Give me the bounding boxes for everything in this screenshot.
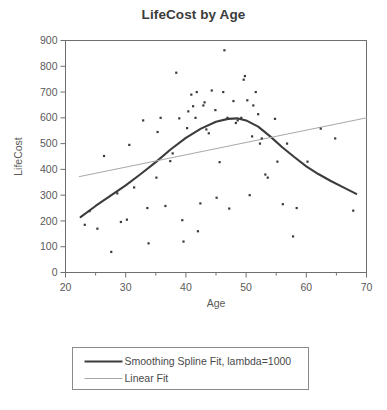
scatter-point [88, 210, 90, 212]
scatter-point [203, 101, 205, 103]
scatter-point [196, 91, 198, 93]
scatter-point [252, 104, 254, 106]
scatter-point [251, 135, 253, 137]
scatter-point [243, 79, 245, 81]
x-tick-label: 70 [361, 281, 373, 293]
x-axis-title: Age [207, 297, 226, 309]
scatter-point [352, 210, 354, 212]
x-tick-label: 50 [240, 281, 252, 293]
scatter-point [274, 118, 276, 120]
scatter-point [186, 127, 188, 129]
chart-canvas: 0100200300400500600700800900 20304050607… [0, 0, 387, 410]
scatter-points [84, 49, 355, 253]
scatter-point [192, 105, 194, 107]
y-tick-label: 300 [40, 189, 58, 201]
scatter-point [128, 144, 130, 146]
scatter-point [211, 89, 213, 91]
x-tick-label: 40 [180, 281, 192, 293]
scatter-point [103, 155, 105, 157]
scatter-point [296, 207, 298, 209]
scatter-point [110, 251, 112, 253]
chart-legend: Smoothing Spline Fit, lambda=1000Linear … [73, 348, 309, 390]
y-tick-label: 900 [40, 34, 58, 46]
scatter-point [172, 152, 174, 154]
scatter-point [282, 203, 284, 205]
y-axis: 0100200300400500600700800900 [40, 34, 66, 278]
scatter-point [84, 224, 86, 226]
scatter-point [257, 113, 259, 115]
y-axis-title: LifeCost [12, 137, 24, 176]
scatter-point [155, 177, 157, 179]
fit-line [79, 118, 366, 177]
plot-frame [66, 41, 367, 273]
chart-figure: LifeCost by Age 010020030040050060070080… [0, 0, 387, 410]
scatter-point [164, 205, 166, 207]
scatter-point [292, 235, 294, 237]
scatter-point [178, 117, 180, 119]
scatter-point [208, 132, 210, 134]
scatter-point [199, 202, 201, 204]
scatter-point [190, 94, 192, 96]
scatter-point [306, 161, 308, 163]
y-tick-label: 600 [40, 111, 58, 123]
scatter-point [240, 117, 242, 119]
scatter-point [187, 110, 189, 112]
scatter-point [120, 221, 122, 223]
y-tick-label: 800 [40, 60, 58, 72]
scatter-point [216, 197, 218, 199]
scatter-point [264, 173, 266, 175]
scatter-point [222, 91, 224, 93]
scatter-point [147, 242, 149, 244]
scatter-point [142, 119, 144, 121]
scatter-point [181, 219, 183, 221]
scatter-point [116, 192, 118, 194]
scatter-point [182, 240, 184, 242]
scatter-point [261, 137, 263, 139]
y-tick-label: 0 [52, 266, 58, 278]
scatter-point [228, 207, 230, 209]
scatter-point [169, 160, 171, 162]
scatter-point [157, 131, 159, 133]
scatter-point [267, 177, 269, 179]
scatter-point [276, 161, 278, 163]
scatter-point [219, 161, 221, 163]
y-tick-label: 100 [40, 240, 58, 252]
scatter-point [194, 117, 196, 119]
x-tick-label: 20 [60, 281, 72, 293]
scatter-point [249, 194, 251, 196]
legend-label: Smoothing Spline Fit, lambda=1000 [125, 355, 292, 367]
y-tick-label: 200 [40, 215, 58, 227]
scatter-point [320, 128, 322, 130]
scatter-point [259, 143, 261, 145]
scatter-point [223, 49, 225, 51]
y-tick-label: 400 [40, 163, 58, 175]
x-tick-label: 30 [120, 281, 132, 293]
scatter-point [334, 137, 336, 139]
scatter-point [175, 72, 177, 74]
x-tick-label: 60 [300, 281, 312, 293]
scatter-point [133, 186, 135, 188]
scatter-point [286, 143, 288, 145]
fit-lines [79, 118, 366, 217]
scatter-point [244, 75, 246, 77]
legend-label: Linear Fit [125, 372, 169, 384]
scatter-point [237, 119, 239, 121]
scatter-point [226, 117, 228, 119]
scatter-point [255, 91, 257, 93]
scatter-point [160, 117, 162, 119]
scatter-point [214, 109, 216, 111]
y-tick-label: 500 [40, 137, 58, 149]
scatter-point [146, 207, 148, 209]
scatter-point [205, 128, 207, 130]
scatter-point [246, 99, 248, 101]
scatter-point [232, 100, 234, 102]
scatter-point [202, 104, 204, 106]
scatter-point [126, 219, 128, 221]
x-axis: 203040506070 [60, 273, 373, 293]
scatter-point [235, 122, 237, 124]
y-tick-label: 700 [40, 86, 58, 98]
scatter-point [197, 230, 199, 232]
scatter-point [96, 228, 98, 230]
